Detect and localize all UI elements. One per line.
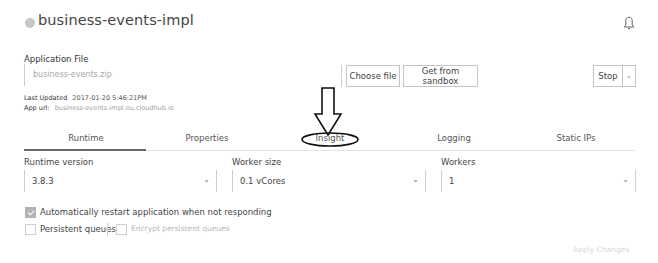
tab-insight[interactable]: Insight	[316, 133, 345, 143]
tab-static-ips[interactable]: Static IPs	[557, 133, 596, 143]
runtime-version-select[interactable]: 3.8.3 ⌄	[24, 170, 217, 192]
app-url-line: App url: business-events-impl.eu.cloudhu…	[24, 104, 174, 112]
auto-restart-label: Automatically restart application when n…	[40, 207, 272, 217]
app-status-dot	[25, 18, 35, 28]
last-updated-label: Last Updated	[24, 94, 67, 102]
application-file-label: Application File	[24, 54, 88, 64]
file-name-value: business-events.zip	[33, 70, 112, 79]
worker-size-value: 0.1 vCores	[240, 176, 285, 186]
persistent-queues-checkbox[interactable]	[25, 224, 36, 235]
stop-button[interactable]: Stop	[593, 65, 623, 87]
app-name-title: business-events-impl	[38, 12, 194, 28]
app-url-label: App url:	[24, 104, 50, 112]
encrypt-queues-label: Encrypt persistent queues	[131, 224, 230, 233]
runtime-version-value: 3.8.3	[32, 176, 54, 186]
app-url-link[interactable]: business-events-impl.eu.cloudhub.io	[55, 104, 174, 112]
application-file-field[interactable]: business-events.zip	[24, 64, 324, 86]
tab-runtime[interactable]: Runtime	[68, 133, 104, 143]
tab-properties[interactable]: Properties	[186, 133, 229, 143]
worker-size-label: Worker size	[232, 157, 281, 167]
runtime-version-label: Runtime version	[24, 157, 93, 167]
last-updated-line: Last Updated 2017-01-20 5:46:21PM	[24, 94, 147, 102]
stop-options-button[interactable]: ⌄	[622, 65, 636, 87]
workers-label: Workers	[441, 157, 475, 167]
choose-file-button[interactable]: Choose file	[346, 65, 400, 87]
chevron-down-icon: ⌄	[626, 72, 632, 80]
get-from-sandbox-button[interactable]: Get from sandbox	[403, 65, 478, 87]
last-updated-value: 2017-01-20 5:46:21PM	[72, 94, 146, 102]
tab-logging[interactable]: Logging	[437, 133, 471, 143]
workers-value: 1	[449, 176, 454, 186]
chevron-down-icon: ⌄	[622, 175, 629, 184]
encrypt-queues-checkbox[interactable]	[116, 224, 127, 235]
chevron-down-icon: ⌄	[203, 175, 210, 184]
app-header: business-events-impl	[0, 0, 658, 45]
worker-size-select[interactable]: 0.1 vCores ⌄	[232, 170, 426, 192]
settings-tabs: Runtime Properties Insight Logging Stati…	[24, 133, 636, 151]
bell-icon[interactable]	[623, 16, 635, 30]
file-field-divider	[341, 65, 342, 87]
workers-select[interactable]: 1 ⌄	[441, 170, 636, 192]
apply-changes-button[interactable]: Apply Changes	[573, 245, 629, 254]
checkbox-divider	[107, 223, 108, 236]
auto-restart-checkbox[interactable]	[25, 207, 36, 218]
persistent-queues-label: Persistent queues	[40, 224, 116, 234]
chevron-down-icon: ⌄	[412, 175, 419, 184]
active-tab-indicator	[24, 149, 146, 151]
